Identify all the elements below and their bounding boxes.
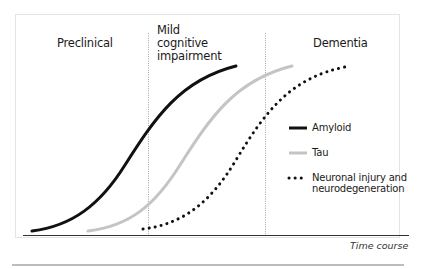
bottom-rule xyxy=(12,264,404,266)
tau-curve xyxy=(88,66,292,231)
x-axis-label: Time course xyxy=(350,240,408,251)
legend-label-amyloid: Amyloid xyxy=(312,122,351,133)
amyloid-curve xyxy=(32,66,236,231)
legend-label-neuronal-line1: Neuronal injury and xyxy=(312,172,407,183)
phase-label-preclinical: Preclinical xyxy=(57,37,113,50)
phase-label-dementia: Dementia xyxy=(313,37,368,50)
legend-label-neuronal-line2: neurodegeneration xyxy=(312,183,404,194)
phase-label-mci-line3: impairment xyxy=(157,50,222,63)
legend-label-tau: Tau xyxy=(312,147,328,158)
